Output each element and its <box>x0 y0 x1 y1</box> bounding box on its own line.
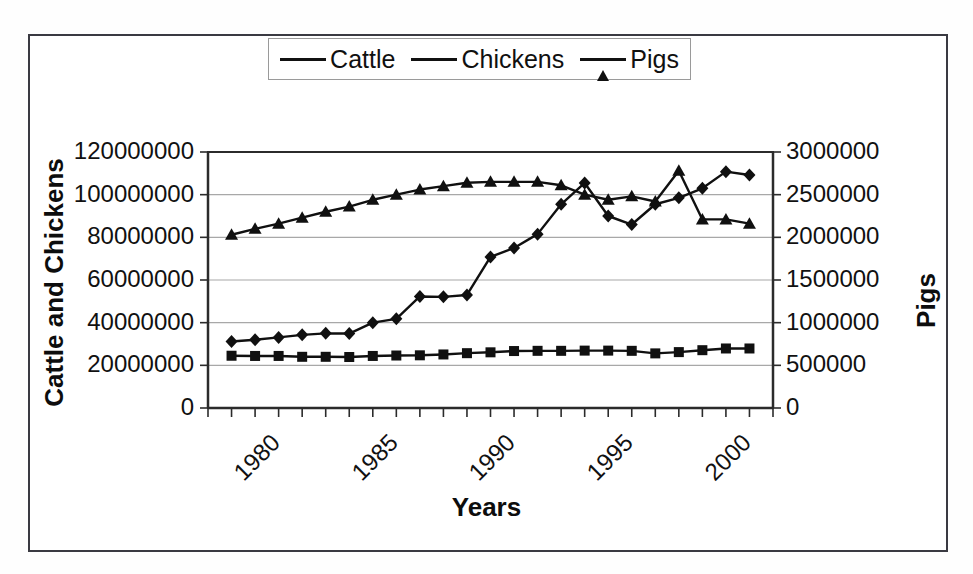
x-tick-label: 1985 <box>347 430 402 485</box>
y-axis-right-title-text: Pigs <box>911 273 942 328</box>
y-axis-left-title-text: Cattle and Chickens <box>39 158 70 407</box>
x-axis-title: Years <box>0 492 973 523</box>
x-tick-label: 1990 <box>465 430 520 485</box>
x-tick-label: 1980 <box>230 430 285 485</box>
x-tick-label: 1995 <box>583 430 638 485</box>
chart-page: Cattle Chickens Pigs 0200000004000000060… <box>0 0 973 574</box>
y-axis-left-title: Cattle and Chickens <box>36 162 72 402</box>
x-tick-label: 2000 <box>700 430 755 485</box>
y-axis-right-title: Pigs <box>908 235 944 365</box>
x-axis-ticks: 19801985199019952000 <box>0 0 973 574</box>
